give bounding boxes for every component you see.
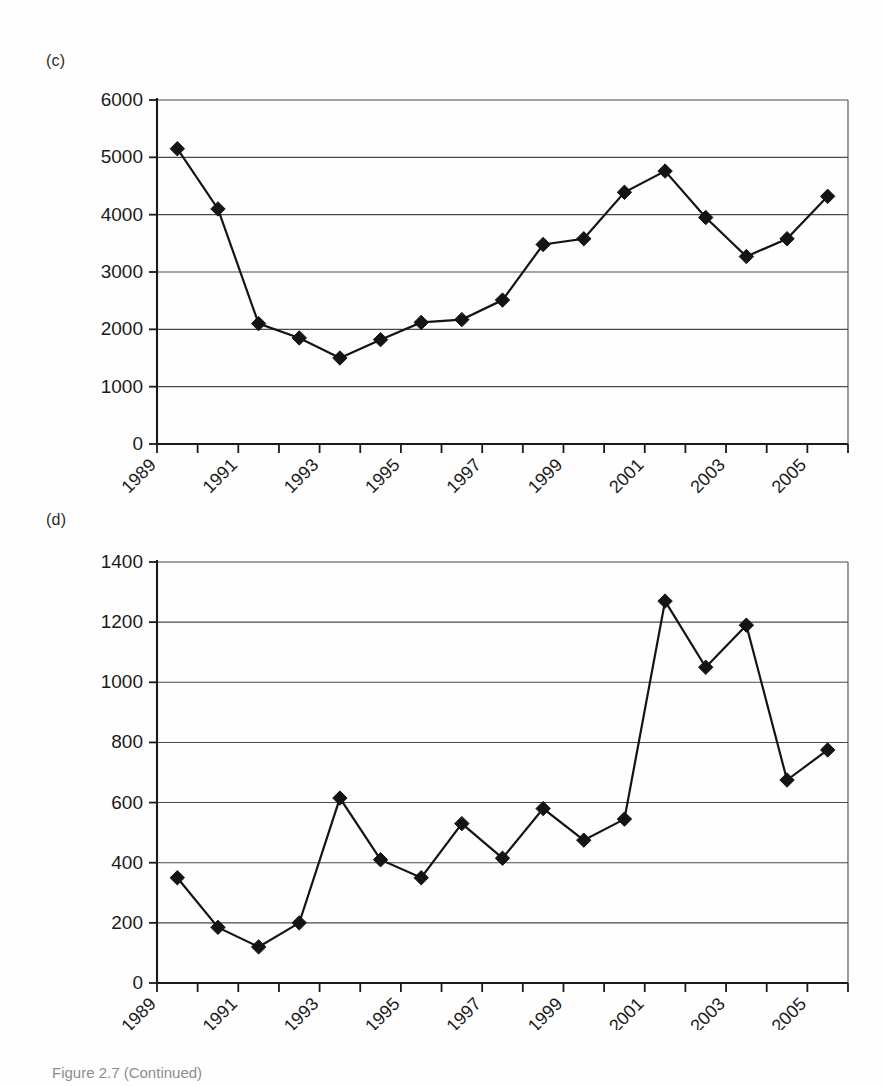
data-point-marker [292, 331, 306, 345]
panel-c-plot: 0100020003000400050006000198919911993199… [0, 46, 883, 512]
data-point-marker [251, 940, 265, 954]
x-tick-label-1997: 1997 [443, 994, 485, 1030]
line-chart-c: 0100020003000400050006000198919911993199… [0, 46, 883, 512]
data-point-marker [292, 916, 306, 930]
x-tick-label-2001: 2001 [605, 994, 647, 1030]
y-tick-label-0: 0 [132, 433, 143, 454]
data-point-marker [211, 202, 225, 216]
y-tick-label-5000: 5000 [101, 146, 143, 167]
y-tick-label-400: 400 [111, 852, 143, 873]
x-tick-label-2005: 2005 [768, 994, 810, 1030]
y-tick-label-0: 0 [132, 972, 143, 993]
y-tick-label-200: 200 [111, 912, 143, 933]
x-tick-label-1999: 1999 [524, 455, 566, 497]
x-tick-label-2005: 2005 [768, 455, 810, 497]
x-tick-label-1989: 1989 [117, 994, 159, 1030]
y-tick-label-3000: 3000 [101, 261, 143, 282]
data-point-marker [373, 853, 387, 867]
y-tick-label-4000: 4000 [101, 204, 143, 225]
x-tick-label-1989: 1989 [117, 455, 159, 497]
y-tick-label-6000: 6000 [101, 89, 143, 110]
data-point-marker [373, 332, 387, 346]
panel-d: (d) 020040060080010001200140019891991199… [0, 505, 883, 1030]
y-tick-label-1200: 1200 [101, 611, 143, 632]
series-line [177, 149, 827, 358]
y-tick-label-800: 800 [111, 731, 143, 752]
figure-caption: Figure 2.7 (Continued) [52, 1064, 202, 1086]
data-point-marker [333, 351, 347, 365]
x-tick-label-1999: 1999 [524, 994, 566, 1030]
data-point-marker [170, 142, 184, 156]
x-tick-label-1995: 1995 [361, 455, 403, 497]
data-point-marker [658, 594, 672, 608]
x-tick-label-2003: 2003 [686, 455, 728, 497]
x-tick-label-2003: 2003 [686, 994, 728, 1030]
y-tick-label-1000: 1000 [101, 671, 143, 692]
y-tick-label-2000: 2000 [101, 318, 143, 339]
data-point-marker [414, 315, 428, 329]
data-point-marker [617, 812, 631, 826]
x-tick-label-1997: 1997 [443, 455, 485, 497]
series-line [177, 601, 827, 947]
data-point-marker [251, 316, 265, 330]
x-tick-label-2001: 2001 [605, 455, 647, 497]
data-point-marker [455, 312, 469, 326]
figure-page: (c) 010002000300040005000600019891991199… [0, 0, 883, 1086]
x-tick-label-1993: 1993 [280, 994, 322, 1030]
x-tick-label-1995: 1995 [361, 994, 403, 1030]
panel-c: (c) 010002000300040005000600019891991199… [0, 46, 883, 512]
x-tick-label-1993: 1993 [280, 455, 322, 497]
y-tick-label-1000: 1000 [101, 376, 143, 397]
x-tick-label-1991: 1991 [199, 994, 241, 1030]
panel-d-plot: 0200400600800100012001400198919911993199… [0, 505, 883, 1030]
line-chart-d: 0200400600800100012001400198919911993199… [0, 505, 883, 1030]
y-tick-label-1400: 1400 [101, 551, 143, 572]
x-tick-label-1991: 1991 [199, 455, 241, 497]
y-tick-label-600: 600 [111, 792, 143, 813]
